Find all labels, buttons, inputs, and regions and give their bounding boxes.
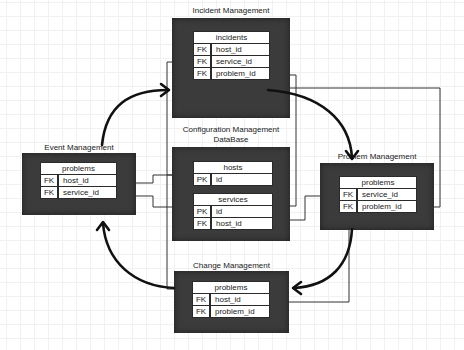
module-cmdb: Configuration Management DataBase hosts …: [172, 125, 290, 241]
entity-problems[interactable]: problems FK service_id FK problem_id: [339, 176, 417, 213]
field-name: problem_id: [211, 306, 269, 317]
fk-badge: FK: [193, 306, 211, 317]
module-box: hosts PK id services PK id FK host_id: [172, 147, 290, 241]
fk-badge: FK: [194, 56, 212, 67]
field-name: id: [212, 206, 272, 217]
field-row-problem-id[interactable]: FK problem_id: [194, 68, 269, 79]
module-box: problems FK service_id FK problem_id: [320, 163, 434, 230]
fk-badge: FK: [194, 44, 212, 55]
module-event-management: Event Management problems FK host_id FK …: [22, 143, 136, 215]
module-title: Change Management: [154, 261, 309, 270]
field-name: host_id: [212, 218, 272, 229]
field-name: service_id: [212, 56, 269, 67]
field-row-problem-id[interactable]: FK problem_id: [193, 306, 269, 317]
field-name: host_id: [212, 44, 269, 55]
entity-services[interactable]: services PK id FK host_id: [193, 193, 273, 230]
field-row-problem-id[interactable]: FK problem_id: [340, 201, 416, 212]
module-incident-management: Incident Management incidents FK host_id…: [172, 6, 290, 118]
module-box: incidents FK host_id FK service_id FK pr…: [172, 18, 290, 118]
entity-header: services: [194, 194, 272, 206]
field-name: service_id: [59, 187, 116, 198]
fk-badge: FK: [41, 187, 59, 198]
entity-problems[interactable]: problems FK host_id FK problem_id: [192, 281, 270, 318]
field-row-service-id[interactable]: FK service_id: [41, 187, 116, 198]
fk-badge: FK: [41, 175, 59, 186]
field-name: id: [212, 174, 272, 185]
field-name: host_id: [211, 294, 269, 305]
pk-badge: PK: [194, 174, 212, 185]
pk-badge: PK: [194, 206, 212, 217]
field-row-host-id[interactable]: FK host_id: [193, 294, 269, 306]
fk-badge: FK: [193, 294, 211, 305]
field-row-host-id[interactable]: FK host_id: [194, 44, 269, 56]
field-row-id[interactable]: PK id: [194, 174, 272, 185]
field-row-id[interactable]: PK id: [194, 206, 272, 218]
module-change-management: Change Management problems FK host_id FK…: [174, 261, 289, 333]
entity-problems[interactable]: problems FK host_id FK service_id: [40, 162, 117, 199]
module-box: problems FK host_id FK problem_id: [174, 271, 289, 333]
module-problem-management: Problem Management problems FK service_i…: [320, 152, 434, 230]
field-row-host-id[interactable]: FK host_id: [194, 218, 272, 229]
entity-header: problems: [41, 163, 116, 175]
entity-header: incidents: [194, 32, 269, 44]
field-row-host-id[interactable]: FK host_id: [41, 175, 116, 187]
fk-badge: FK: [194, 218, 212, 229]
module-title: Incident Management: [152, 6, 310, 15]
field-name: problem_id: [358, 201, 416, 212]
field-name: problem_id: [212, 68, 269, 79]
field-name: host_id: [59, 175, 116, 186]
module-title: Problem Management: [300, 152, 454, 161]
entity-header: hosts: [194, 162, 272, 174]
field-row-service-id[interactable]: FK service_id: [194, 56, 269, 68]
entity-header: problems: [340, 177, 416, 189]
module-title-line2: DataBase: [152, 135, 310, 144]
entity-header: problems: [193, 282, 269, 294]
fk-badge: FK: [340, 189, 358, 200]
field-row-service-id[interactable]: FK service_id: [340, 189, 416, 201]
entity-incidents[interactable]: incidents FK host_id FK service_id FK pr…: [193, 31, 270, 80]
fk-badge: FK: [194, 68, 212, 79]
entity-hosts[interactable]: hosts PK id: [193, 161, 273, 186]
module-title-line1: Configuration Management: [152, 125, 310, 134]
fk-badge: FK: [340, 201, 358, 212]
module-title: Event Management: [2, 143, 156, 152]
module-box: problems FK host_id FK service_id: [22, 153, 136, 215]
field-name: service_id: [358, 189, 416, 200]
